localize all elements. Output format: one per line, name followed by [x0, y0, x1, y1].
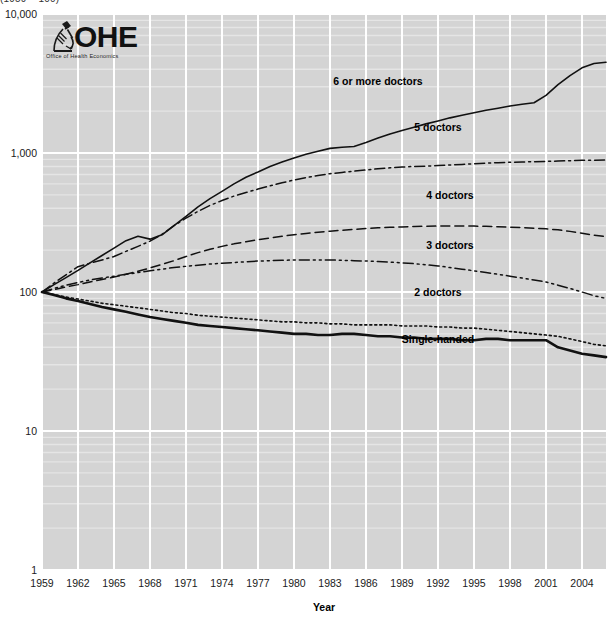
x-tick-label: 1962 — [66, 577, 90, 589]
x-tick-label: 1995 — [462, 577, 486, 589]
x-tick-label: 1971 — [174, 577, 198, 589]
x-tick-label: 1998 — [498, 577, 522, 589]
series-label-5: 2 doctors — [414, 286, 461, 298]
x-tick-label: 2001 — [534, 577, 558, 589]
chart-container: (1959 = 100) 6 or more doctors5 doctors4… — [0, 0, 608, 619]
y-tick-label: 100 — [19, 286, 37, 298]
x-tick-label: 1992 — [426, 577, 450, 589]
line-chart: 6 or more doctors5 doctors4 doctors3 doc… — [0, 0, 608, 619]
x-axis-labels: 1959196219651968197119741977198019831986… — [30, 577, 594, 589]
ohe-logo-svg: OHE Office of Health Economics — [44, 18, 154, 66]
x-tick-label: 1965 — [102, 577, 126, 589]
y-tick-label: 10,000 — [5, 8, 37, 20]
series-label-4: 3 doctors — [426, 239, 473, 251]
logo-subtitle: Office of Health Economics — [46, 53, 119, 59]
x-tick-label: 1989 — [390, 577, 414, 589]
microscope-icon — [54, 21, 73, 51]
x-tick-label: 1986 — [354, 577, 378, 589]
x-tick-label: 1959 — [30, 577, 54, 589]
x-tick-label: 1983 — [318, 577, 342, 589]
logo-wordmark: OHE — [74, 20, 138, 53]
y-tick-label: 1 — [31, 564, 37, 576]
x-tick-label: 1968 — [138, 577, 162, 589]
y-axis-labels: 10,0001,000100101 — [5, 8, 37, 576]
y-tick-label: 10 — [25, 425, 37, 437]
series-label-1: 6 or more doctors — [333, 75, 422, 87]
series-label-6: Single-handed — [402, 333, 474, 345]
x-tick-label: 1980 — [282, 577, 306, 589]
x-tick-label: 2004 — [570, 577, 594, 589]
y-tick-label: 1,000 — [11, 147, 37, 159]
ohe-logo: OHE Office of Health Economics — [44, 18, 154, 66]
series-label-3: 4 doctors — [426, 189, 473, 201]
series-label-2: 5 doctors — [414, 121, 461, 133]
x-tick-label: 1977 — [246, 577, 270, 589]
x-tick-label: 1974 — [210, 577, 234, 589]
x-axis-title: Year — [313, 601, 335, 613]
